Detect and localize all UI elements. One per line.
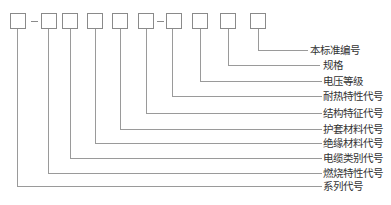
leader-v-6 — [146, 29, 147, 113]
leader-h-1 — [17, 186, 322, 187]
leader-v-10 — [258, 29, 259, 50]
label-heat-resistance-code: 耐热特性代号 — [323, 90, 383, 102]
separator-dash-1 — [31, 21, 38, 22]
leader-v-8 — [200, 29, 201, 81]
leader-v-4 — [95, 29, 96, 143]
leader-v-5 — [120, 29, 121, 129]
label-series-code: 系列代号 — [323, 180, 363, 192]
leader-v-9 — [228, 29, 229, 65]
label-specification: 规格 — [323, 59, 343, 71]
separator-dash-2 — [157, 21, 164, 22]
code-box-3 — [62, 13, 78, 29]
leader-v-7 — [172, 29, 173, 96]
code-box-5 — [112, 13, 128, 29]
code-box-7 — [166, 13, 182, 29]
code-box-4 — [87, 13, 103, 29]
leader-h-7 — [172, 96, 322, 97]
leader-h-9 — [228, 65, 320, 66]
label-combustion-code: 燃烧特性代号 — [323, 167, 383, 179]
leader-h-2 — [48, 173, 322, 174]
label-structure-code: 结构特征代号 — [323, 107, 383, 119]
label-voltage-grade: 电压等级 — [323, 75, 363, 87]
leader-h-8 — [200, 81, 322, 82]
leader-h-4 — [95, 143, 322, 144]
label-insulation-material-code: 绝缘材料代号 — [323, 137, 383, 149]
code-box-1 — [10, 13, 26, 29]
label-sheath-material-code: 护套材料代号 — [323, 123, 383, 135]
leader-h-10 — [258, 50, 308, 51]
leader-h-3 — [70, 158, 322, 159]
leader-v-1 — [17, 29, 18, 186]
code-box-2 — [41, 13, 57, 29]
code-box-9 — [220, 13, 236, 29]
label-standard-number: 本标准编号 — [310, 44, 360, 56]
leader-v-3 — [70, 29, 71, 158]
code-box-10 — [250, 13, 266, 29]
code-box-6 — [138, 13, 154, 29]
leader-v-2 — [48, 29, 49, 173]
label-cable-category-code: 电缆类别代号 — [323, 152, 383, 164]
code-box-8 — [192, 13, 208, 29]
leader-h-6 — [146, 113, 322, 114]
leader-h-5 — [120, 129, 322, 130]
